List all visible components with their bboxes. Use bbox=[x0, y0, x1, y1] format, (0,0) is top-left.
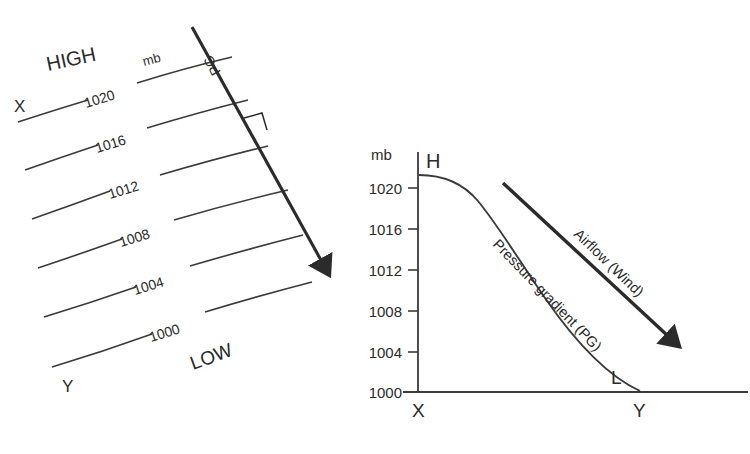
y-tick-label-1020: 1020 bbox=[369, 180, 402, 197]
isobar-line-1008-right bbox=[174, 190, 288, 220]
pressure-gradient-figure: 1020 1016 1012 1008 1004 1000 bbox=[0, 0, 750, 454]
isobar-line-1000-left bbox=[52, 334, 152, 367]
y-tick-label-1004: 1004 bbox=[369, 344, 402, 361]
isobar-line-1012-left bbox=[32, 191, 110, 219]
isobar-label-1008: 1008 bbox=[117, 225, 152, 249]
high-pressure-label: HIGH bbox=[44, 43, 97, 75]
y-axis-ticks bbox=[408, 188, 418, 392]
isobar-line-1016-left bbox=[25, 145, 98, 170]
low-pressure-label: LOW bbox=[187, 339, 235, 374]
y-tick-label-1008: 1008 bbox=[369, 303, 402, 320]
pressure-gradient-curve-label: Pressure gradient (PG) bbox=[490, 236, 605, 354]
isobar-line-1004-left bbox=[44, 287, 136, 317]
isobar-map: 1020 1016 1012 1008 1004 1000 bbox=[14, 27, 322, 396]
isobar-line-1016-right bbox=[147, 100, 248, 128]
isobar-label-1012: 1012 bbox=[106, 177, 141, 201]
isobar-label-1016: 1016 bbox=[93, 131, 128, 155]
isobar-label-1020: 1020 bbox=[82, 86, 117, 110]
isobar-unit-label: mb bbox=[141, 50, 162, 69]
isobar-line-1020-left bbox=[18, 100, 88, 122]
isobar-line-1000-right bbox=[205, 282, 312, 312]
x-axis-start-label: X bbox=[412, 400, 425, 421]
pressure-gradient-arrow-label: PG bbox=[200, 53, 224, 78]
airflow-arrow bbox=[503, 183, 668, 336]
low-marker-label: L bbox=[611, 367, 622, 388]
airflow-arrow-label: Airflow (Wind) bbox=[571, 226, 647, 300]
transect-endpoint-x-label: X bbox=[14, 97, 25, 116]
isobar-line-1008-left bbox=[38, 239, 122, 268]
high-marker-label: H bbox=[426, 150, 440, 172]
pressure-cross-section: 1020 1016 1012 1008 1004 1000 mb Pressur… bbox=[369, 146, 748, 421]
transect-endpoint-y-label: Y bbox=[62, 377, 73, 396]
y-axis-unit-label: mb bbox=[371, 146, 392, 163]
x-axis-end-label: Y bbox=[633, 400, 646, 421]
y-tick-label-1016: 1016 bbox=[369, 221, 402, 238]
isobar-line-1012-right bbox=[160, 146, 268, 175]
y-tick-label-1000: 1000 bbox=[369, 384, 402, 401]
isobar-label-1004: 1004 bbox=[131, 273, 166, 297]
y-tick-label-1012: 1012 bbox=[369, 262, 402, 279]
isobar-line-1004-right bbox=[190, 235, 303, 266]
isobar-label-1000: 1000 bbox=[147, 320, 182, 344]
